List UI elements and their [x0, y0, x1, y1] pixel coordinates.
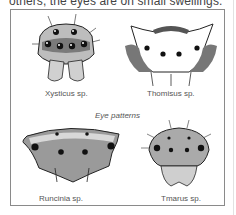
runcinia-eye-illustration	[19, 122, 123, 184]
intro-text: others, the eyes are on small swellings.	[9, 0, 222, 8]
xysticus-caption: Xysticus sp.	[45, 89, 88, 98]
tmarus-eye-illustration	[139, 120, 219, 190]
eye-patterns-figure: Xysticus sp. Thomisus sp. Eye patterns R…	[10, 9, 225, 206]
thomisus-caption: Thomisus sp.	[147, 89, 195, 98]
page-edge-rule	[233, 0, 234, 215]
thomisus-eye-illustration	[123, 16, 219, 86]
runcinia-caption: Runcinia sp.	[39, 194, 83, 203]
tmarus-caption: Tmarus sp.	[161, 194, 201, 203]
xysticus-eye-illustration	[26, 14, 106, 86]
figure-title: Eye patterns	[11, 111, 224, 120]
